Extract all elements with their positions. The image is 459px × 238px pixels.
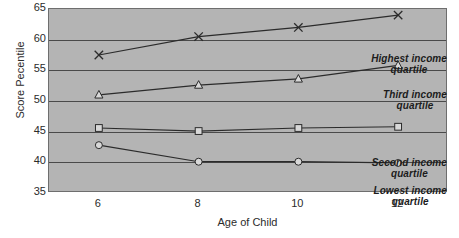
- y-axis-title: Score Pecentile: [14, 20, 26, 140]
- y-axis-tick-label: 65: [2, 2, 46, 13]
- data-point-square: [295, 125, 302, 132]
- data-point-square: [395, 123, 402, 130]
- series-annotation-line: quartile: [371, 64, 447, 75]
- chart-figure: 65605550454035 Score Pecentile Highest i…: [0, 0, 459, 238]
- data-point-circle: [295, 158, 302, 165]
- series-annotation: Third incomequartile: [383, 89, 447, 111]
- x-axis-tick-label: 10: [277, 197, 317, 209]
- plot-area: Highest incomequartileThird incomequarti…: [48, 8, 447, 192]
- series-annotation: Second incomequartile: [372, 157, 447, 179]
- series-annotation-line: Second income: [372, 157, 447, 168]
- x-axis-tick-label: 6: [78, 197, 118, 209]
- series-annotation-line: quartile: [372, 168, 447, 179]
- y-axis-tick-label: 35: [2, 186, 46, 197]
- series-annotation: Highest incomequartile: [371, 53, 447, 75]
- series-annotation-line: Highest income: [371, 53, 447, 64]
- series-square: [95, 123, 401, 134]
- data-point-square: [95, 125, 102, 132]
- series-annotation-line: Third income: [383, 89, 447, 100]
- y-axis-tick-label: 40: [2, 155, 46, 166]
- data-point-circle: [95, 142, 102, 149]
- series-x: [95, 11, 403, 59]
- x-axis-title: Age of Child: [48, 216, 447, 228]
- series-annotation-line: Lowest income: [373, 185, 447, 196]
- data-point-square: [195, 128, 202, 135]
- x-axis-tick-label: 12: [377, 197, 417, 209]
- series-triangle: [95, 61, 402, 98]
- series-annotation-line: quartile: [383, 100, 447, 111]
- x-axis-tick-label: 8: [178, 197, 218, 209]
- x-axis-tick-labels: 681012: [48, 197, 447, 211]
- data-point-circle: [195, 158, 202, 165]
- series-circle: [95, 142, 401, 167]
